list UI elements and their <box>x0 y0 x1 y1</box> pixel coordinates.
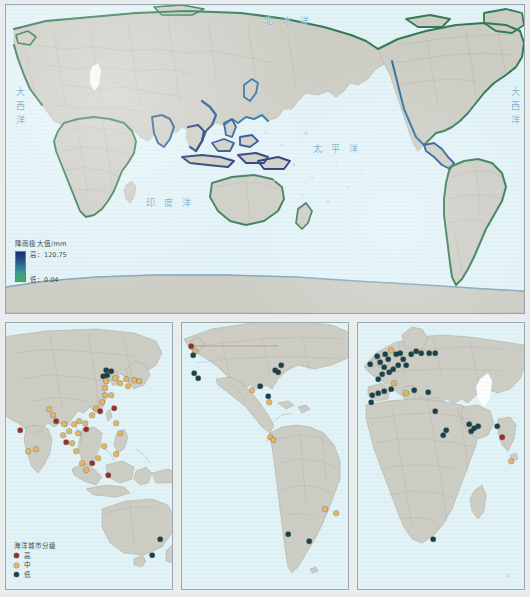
mid-swatch-icon <box>14 563 19 568</box>
city-dot-mid <box>118 381 123 386</box>
city-dot-low <box>419 351 424 356</box>
city-dot-mid <box>84 468 89 473</box>
city-dot-mid <box>114 452 119 457</box>
city-dot-low <box>433 351 438 356</box>
city-dot-mid <box>80 461 85 466</box>
city-dot-low <box>414 349 419 354</box>
city-dot-mid <box>137 379 142 384</box>
precipitation-legend: 降雨极大值/mm 高：120.75 低：0.04 <box>15 238 103 283</box>
city-dot-mid <box>83 421 88 426</box>
city-dot-low <box>150 553 155 558</box>
city-dot-low <box>444 428 449 433</box>
city-dot-mid <box>113 376 118 381</box>
city-dot-low <box>398 351 403 356</box>
city-dot-mid <box>267 400 272 405</box>
city-dot-low <box>378 360 383 365</box>
city-dot-mid <box>124 377 129 382</box>
city-dot-low <box>158 537 163 542</box>
city-dot-mid <box>118 431 123 436</box>
city-dot-mid <box>126 384 131 389</box>
legend-label-low: 低 <box>24 572 31 579</box>
city-dot-high <box>98 409 103 414</box>
city-dot-mid <box>47 407 52 412</box>
legend-label-high: 高 <box>24 553 31 560</box>
city-dot-low <box>383 352 388 357</box>
city-dot-low <box>412 388 417 393</box>
city-dot-mid <box>90 413 95 418</box>
city-dot-low <box>495 424 500 429</box>
city-dot-low <box>109 369 114 374</box>
city-dot-low <box>409 352 414 357</box>
precipitation-color-ramp <box>15 251 26 282</box>
city-dot-mid <box>103 393 108 398</box>
city-dot-mid <box>51 413 56 418</box>
city-dot-mid <box>404 391 409 396</box>
city-dot-mid <box>70 441 75 446</box>
city-dot-mid <box>109 393 114 398</box>
city-dot-low <box>279 363 284 368</box>
legend-item-low: 低 <box>14 572 56 579</box>
city-dot-mid <box>77 419 82 424</box>
city-dot-low <box>476 424 481 429</box>
city-dot-low <box>389 387 394 392</box>
city-dot-mid <box>334 511 339 516</box>
city-dot-low <box>380 372 385 377</box>
city-dot-high <box>64 440 69 445</box>
ocean-label-pacific: 太平洋 <box>313 142 367 155</box>
city-dot-low <box>433 409 438 414</box>
city-dot-low <box>105 373 110 378</box>
city-dot-mid <box>67 429 72 434</box>
city-dot-high <box>106 473 111 478</box>
city-dot-low <box>431 537 436 542</box>
city-dot-low <box>307 539 312 544</box>
city-dot-mid <box>96 456 101 461</box>
city-dot-low <box>368 362 373 367</box>
americas-graphic <box>182 323 348 589</box>
city-dot-low <box>266 394 271 399</box>
city-dot-low <box>401 357 406 362</box>
city-dot-high <box>18 428 23 433</box>
city-dot-mid <box>250 388 255 393</box>
precipitation-high-label: 高：120.75 <box>30 252 67 259</box>
city-dot-low <box>273 368 278 373</box>
city-dot-low <box>382 389 387 394</box>
sub-map-row: 海洋城市分级 高 中 低 <box>5 322 525 592</box>
city-dot-low <box>369 400 374 405</box>
city-dot-low <box>196 376 201 381</box>
city-dot-mid <box>392 381 397 386</box>
precipitation-legend-title: 降雨极大值/mm <box>15 238 103 248</box>
city-dot-mid <box>509 459 514 464</box>
city-dot-mid <box>34 447 39 452</box>
ocean-label-indian: 印度洋 <box>146 196 200 209</box>
city-dot-low <box>386 357 391 362</box>
city-dot-low <box>286 532 291 537</box>
city-dot-low <box>469 429 474 434</box>
americas-panel <box>181 322 349 590</box>
corner-mark-text: © <box>506 573 510 578</box>
high-swatch-icon <box>14 553 19 558</box>
ocean-label-arctic: 北冰洋 <box>264 14 318 27</box>
ocean-label-atlantic-west: 大西洋 <box>14 87 27 129</box>
europe-africa-panel: © <box>357 322 525 590</box>
city-dot-mid <box>104 379 109 384</box>
city-dot-low <box>404 363 409 368</box>
city-dot-low <box>104 368 109 373</box>
city-dot-low <box>192 371 197 376</box>
city-dot-high <box>500 435 505 440</box>
city-class-legend: 海洋城市分级 高 中 低 <box>14 540 56 582</box>
city-dot-mid <box>74 449 79 454</box>
city-dot-mid <box>62 422 67 427</box>
city-dot-high <box>112 406 117 411</box>
city-dot-mid <box>271 438 276 443</box>
city-dot-low <box>467 422 472 427</box>
city-dot-low <box>375 354 380 359</box>
city-dot-mid <box>132 378 137 383</box>
city-dot-mid <box>76 431 81 436</box>
ocean-label-atlantic-east: 大西洋 <box>509 87 522 129</box>
legend-label-mid: 中 <box>24 562 31 569</box>
city-dot-low <box>387 370 392 375</box>
city-dot-mid <box>72 422 77 427</box>
legend-item-high: 高 <box>14 553 56 560</box>
city-dot-low <box>382 365 387 370</box>
map-figure: 北冰洋 太平洋 印度洋 大西洋 大西洋 降雨极大值/mm 高：120.75 低：… <box>0 0 530 597</box>
